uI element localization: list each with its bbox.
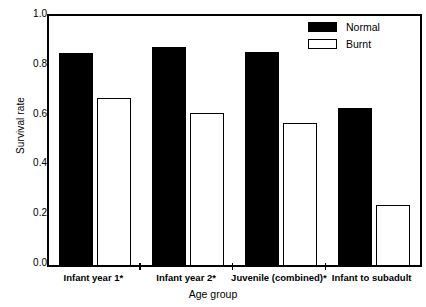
legend-item-burnt: Burnt bbox=[308, 35, 412, 52]
bar-normal-3 bbox=[245, 52, 279, 265]
bar-normal-4 bbox=[338, 108, 372, 265]
x-tick-mark bbox=[139, 263, 141, 270]
x-tick-label: Infant year 1* bbox=[64, 272, 124, 283]
y-tick-label: 0.2 bbox=[21, 208, 47, 218]
y-tick-label: 0.0 bbox=[21, 258, 47, 268]
y-tick-label: 0.8 bbox=[21, 59, 47, 69]
bar-normal-2 bbox=[152, 47, 186, 265]
x-axis-title: Age group bbox=[0, 288, 426, 300]
legend-item-normal: Normal bbox=[308, 18, 412, 35]
y-tick-label: 1.0 bbox=[21, 9, 47, 19]
y-axis-ticks: 0.00.20.40.60.81.0 bbox=[18, 0, 47, 307]
legend-swatch-normal bbox=[308, 22, 337, 32]
x-tick-mark bbox=[325, 263, 327, 270]
figure-container: Survival rate 0.00.20.40.60.81.0 Infant … bbox=[0, 0, 426, 307]
x-tick-label: Infant year 2* bbox=[156, 272, 216, 283]
legend-label-burnt: Burnt bbox=[346, 38, 371, 50]
legend-label-normal: Normal bbox=[346, 21, 380, 33]
legend-swatch-burnt bbox=[308, 39, 337, 49]
bar-burnt-1 bbox=[97, 98, 131, 265]
bar-burnt-2 bbox=[190, 113, 224, 265]
x-tick-label: Juvenile (combined)* bbox=[231, 272, 327, 283]
bar-normal-1 bbox=[59, 53, 93, 265]
bar-burnt-3 bbox=[283, 123, 317, 265]
y-tick-label: 0.6 bbox=[21, 109, 47, 119]
x-tick-mark bbox=[232, 263, 234, 270]
bar-burnt-4 bbox=[376, 205, 410, 265]
x-tick-label: Infant to subadult bbox=[332, 272, 412, 283]
y-tick-label: 0.4 bbox=[21, 158, 47, 168]
chart-legend: NormalBurnt bbox=[308, 18, 412, 52]
